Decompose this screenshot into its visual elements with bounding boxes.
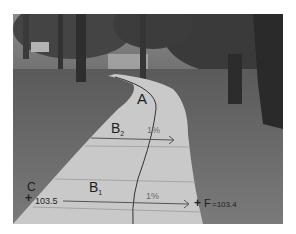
slope-b1: 1%	[146, 192, 159, 201]
elevation-f: =103.4	[212, 201, 237, 209]
label-a: A	[137, 91, 147, 106]
path-photo: A B2 1% B1 1% C + 103.5 + F =103.4	[13, 14, 283, 224]
label-b2: B2	[111, 121, 124, 137]
slope-b2: 1%	[147, 126, 160, 135]
elevation-c: 103.5	[35, 197, 58, 206]
label-b1: B1	[89, 180, 102, 196]
marker-c: +	[25, 192, 32, 204]
marker-f: +	[194, 197, 201, 209]
label-f: F	[204, 198, 211, 209]
